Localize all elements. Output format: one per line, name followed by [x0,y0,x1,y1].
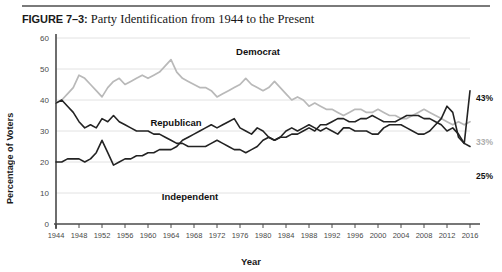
series-inline-label: Republican [150,117,201,128]
y-tick-label: 30 [40,127,49,136]
x-tick-label: 2004 [393,231,410,240]
series-lines-group [56,60,470,165]
x-tick-label: 1968 [186,231,203,240]
x-tick-label: 1944 [48,231,65,240]
x-tick-label: 1960 [140,231,157,240]
x-tick-label: 1948 [71,231,88,240]
series-end-value-label: 33% [476,137,493,147]
y-tick-label: 60 [40,34,49,43]
x-tick-label: 1988 [301,231,318,240]
figure-number: FIGURE 7–3: [22,13,88,25]
figure-title: Party Identification from 1944 to the Pr… [91,12,315,26]
y-tick-label: 40 [40,96,49,105]
series-end-value-label: 25% [476,171,493,181]
y-tick-label: 10 [40,189,49,198]
y-tick-label: 20 [40,158,49,167]
x-tick-label: 1972 [209,231,226,240]
x-tick-label: 2012 [439,231,456,240]
figure-caption: FIGURE 7–3: Party Identification from 19… [22,10,492,28]
x-tick-label: 1980 [255,231,272,240]
x-tick-label: 1976 [232,231,249,240]
x-tick-label: 2016 [462,231,479,240]
x-tick-labels-group: 1944194819521956196019641968197219761980… [48,231,479,240]
x-tick-label: 1952 [94,231,111,240]
plot-area: Percentage of Voters Year 0102030405060 … [0,28,502,272]
x-tick-label: 1992 [324,231,341,240]
line-chart: 0102030405060 19441948195219561960196419… [0,28,502,272]
x-tick-label: 1984 [278,231,295,240]
series-inline-label: Democrat [236,46,281,57]
x-tick-label: 1964 [163,231,180,240]
x-tick-label: 2000 [370,231,387,240]
figure-container: FIGURE 7–3: Party Identification from 19… [0,0,502,272]
y-tick-label: 50 [40,65,49,74]
y-axis-title: Percentage of Voters [2,98,18,218]
y-tick-label: 0 [45,220,50,229]
y-tick-labels-group: 0102030405060 [40,34,49,229]
series-inline-label: Independent [162,191,219,202]
x-axis-title: Year [0,256,502,267]
x-tick-label: 1996 [347,231,364,240]
x-tick-label: 1956 [117,231,134,240]
top-rule-divider [22,5,490,7]
x-tick-label: 2008 [416,231,433,240]
series-end-value-label: 43% [476,93,493,103]
x-axis-group [54,224,480,229]
